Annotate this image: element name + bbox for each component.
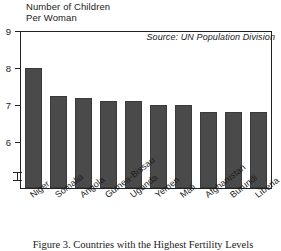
x-axis-label: Mali <box>178 182 197 200</box>
x-axis-label: Niger <box>28 178 52 199</box>
figure-caption: Figure 3. Countries with the Highest Fer… <box>14 239 272 251</box>
